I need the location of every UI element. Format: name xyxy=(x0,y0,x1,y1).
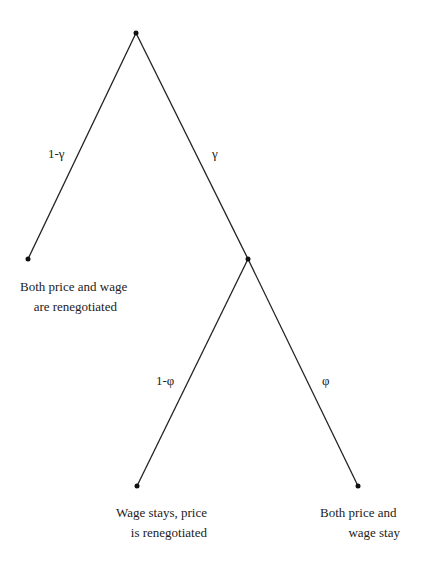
left-leaf-node xyxy=(26,257,31,262)
leaf-label-line: is renegotiated xyxy=(100,523,207,543)
edge-root-to-mid-node xyxy=(136,33,248,259)
leaf-label-line: Wage stays, price xyxy=(100,503,207,523)
leaf-label-both-renegotiated: Both price and wage are renegotiated xyxy=(20,277,117,317)
mid-node xyxy=(246,257,251,262)
leaf-label-line: Both price and xyxy=(320,503,400,523)
leaf-label-wage-stays: Wage stays, price is renegotiated xyxy=(100,503,207,543)
edge-label-gamma: γ xyxy=(212,146,218,162)
leaf-label-both-stay: Both price and wage stay xyxy=(320,503,400,543)
edge-mid-to-bottom-left xyxy=(137,259,248,486)
edge-root-to-left-leaf xyxy=(28,33,136,259)
bottom-right-leaf-node xyxy=(356,484,361,489)
edge-mid-to-bottom-right xyxy=(248,259,358,486)
bottom-left-leaf-node xyxy=(135,484,140,489)
edge-label-phi: φ xyxy=(322,373,330,389)
edge-label-one-minus-phi: 1-φ xyxy=(156,373,174,389)
root-node xyxy=(134,31,139,36)
leaf-label-line: wage stay xyxy=(320,523,400,543)
edge-label-one-minus-gamma: 1-γ xyxy=(48,146,65,162)
leaf-label-line: Both price and wage xyxy=(20,277,117,297)
leaf-label-line: are renegotiated xyxy=(20,297,117,317)
